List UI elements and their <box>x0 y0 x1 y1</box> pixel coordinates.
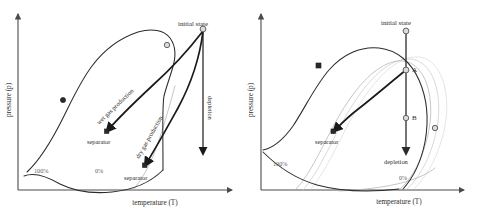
initial-state-label-right: initial state <box>381 19 411 26</box>
point-b-marker[interactable] <box>403 115 408 120</box>
critical-point-marker-left <box>60 97 65 102</box>
pct-0-label-left: 0% <box>95 167 103 174</box>
initial-state-marker-right[interactable] <box>403 28 409 34</box>
figure-root: initial state depletion wet gas producti… <box>0 0 478 213</box>
dew-point-marker-right <box>432 125 437 130</box>
wet-gas-production-path <box>108 31 203 130</box>
separator-marker-wet <box>105 129 109 133</box>
phase-envelope-left <box>27 30 175 172</box>
pct-0-label-right: 0% <box>399 174 407 181</box>
left-chart-svg: initial state depletion wet gas producti… <box>0 0 239 213</box>
x-axis-label-left: temperature (T) <box>132 199 178 207</box>
point-a-marker[interactable] <box>403 67 409 73</box>
cricondenbar-marker-left <box>164 42 169 47</box>
y-axis-label-left: pressure (p) <box>5 82 13 117</box>
separator-label-wet: separator <box>87 138 111 145</box>
dry-gas-production-label: dry gas production <box>134 114 164 160</box>
y-axis-label-right: pressure (p) <box>247 82 255 117</box>
point-b-label: B <box>412 114 417 122</box>
separator-marker-dry <box>143 163 147 167</box>
x-axis-label-right: temperature (T) <box>376 198 422 206</box>
pct-100-label-right: 100% <box>273 160 287 167</box>
shrinking-envelope-1 <box>295 61 431 190</box>
left-axes <box>18 14 232 190</box>
right-axes <box>261 14 464 190</box>
pct-100-label-left: 100% <box>34 167 48 174</box>
phase-diagram-left: initial state depletion wet gas producti… <box>0 0 239 213</box>
initial-state-label-left: initial state <box>178 20 208 27</box>
separator-label-right: separator <box>315 138 339 145</box>
right-chart-svg: initial state A B depletion separator 10… <box>239 0 478 213</box>
separator-label-dry: separator <box>124 174 148 181</box>
point-a-label: A <box>412 66 417 74</box>
depletion-label-left: depletion <box>207 96 214 121</box>
depletion-label-right: depletion <box>384 158 409 165</box>
critical-point-marker-right <box>316 63 321 68</box>
separator-path-right <box>335 70 406 130</box>
shrinking-envelope-3 <box>311 57 447 189</box>
phase-diagram-right: initial state A B depletion separator 10… <box>239 0 478 213</box>
separator-marker-right <box>331 129 336 134</box>
quality-line-0pct-right <box>339 168 435 191</box>
wet-gas-production-label: wet gas production <box>95 86 135 125</box>
